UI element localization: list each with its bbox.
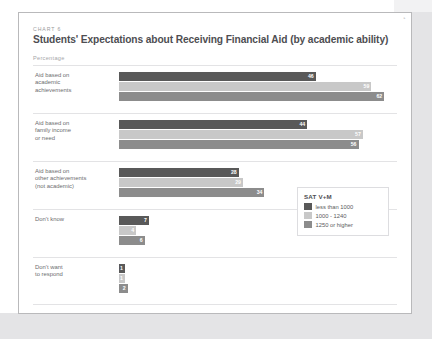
corner-mark-icon: ‣ xyxy=(403,16,408,21)
chart-legend: SAT V+M less than 10001000 - 12401250 or… xyxy=(297,187,389,236)
category-label: Aid based onfamily incomeor need xyxy=(35,120,113,142)
bar-value-label: 7 xyxy=(144,216,147,225)
bar-3: 62 xyxy=(119,92,384,101)
legend-items: less than 10001000 - 12401250 or higher xyxy=(304,203,383,228)
bar-2: 4 xyxy=(119,226,136,235)
bar-value-label: 29 xyxy=(235,178,241,187)
bar-value-label: 1 xyxy=(120,274,123,283)
bar-3: 6 xyxy=(119,236,145,245)
bar-1: 44 xyxy=(119,120,307,129)
legend-swatch-icon xyxy=(304,221,312,228)
bar-3: 34 xyxy=(119,188,264,197)
chart-eyebrow-label: CHART 6 xyxy=(33,26,61,32)
category-label-line: achievements xyxy=(35,87,113,94)
category-label-line: (not academic) xyxy=(35,183,113,190)
bar-value-label: 57 xyxy=(355,130,361,139)
bar-value-label: 62 xyxy=(376,92,382,101)
page-margin-top-right xyxy=(394,0,432,12)
category-label-line: Don't know xyxy=(35,216,113,223)
legend-swatch-icon xyxy=(304,203,312,210)
bar-value-label: 46 xyxy=(308,72,314,81)
category-label-line: Aid based on xyxy=(35,72,113,79)
category-label-line: academic xyxy=(35,79,113,86)
bar-1: 1 xyxy=(119,264,125,273)
category-label: Don't know xyxy=(35,216,113,223)
legend-swatch-icon xyxy=(304,212,312,219)
chart-card: ‣ CHART 6 Students' Expectations about R… xyxy=(18,12,412,314)
legend-item[interactable]: 1000 - 1240 xyxy=(304,212,383,219)
bar-3: 56 xyxy=(119,140,359,149)
category-label: Aid based onacademicachievements xyxy=(35,72,113,94)
bar-group: 445756 xyxy=(119,120,397,150)
legend-item[interactable]: 1250 or higher xyxy=(304,221,383,228)
chart-card-inner: ‣ CHART 6 Students' Expectations about R… xyxy=(19,13,411,313)
page-title: Students' Expectations about Receiving F… xyxy=(33,34,388,45)
chart-group-row: Don't wantto respond112 xyxy=(33,257,397,305)
bar-1: 7 xyxy=(119,216,149,225)
category-label-line: Aid based on xyxy=(35,168,113,175)
bar-value-label: 44 xyxy=(299,120,305,129)
category-label: Aid based onother achievements(not acade… xyxy=(35,168,113,190)
chart-plot-area: Aid based onacademicachievements465962Ai… xyxy=(33,65,397,305)
chart-group-row: Aid based onacademicachievements465962 xyxy=(33,65,397,113)
category-label: Don't wantto respond xyxy=(35,264,113,279)
page-margin-bottom xyxy=(0,313,432,339)
category-label-line: family income xyxy=(35,127,113,134)
bar-2: 29 xyxy=(119,178,243,187)
bar-value-label: 59 xyxy=(364,82,370,91)
bar-1: 28 xyxy=(119,168,239,177)
bar-value-label: 28 xyxy=(231,168,237,177)
bar-3: 2 xyxy=(119,284,128,293)
chart-group-row: Aid based onfamily incomeor need445756 xyxy=(33,113,397,161)
bar-2: 57 xyxy=(119,130,363,139)
category-label-line: other achievements xyxy=(35,175,113,182)
bar-value-label: 1 xyxy=(120,264,123,273)
category-label-line: to respond xyxy=(35,271,113,278)
legend-item-label: less than 1000 xyxy=(316,204,354,210)
bar-value-label: 6 xyxy=(140,236,143,245)
bar-value-label: 34 xyxy=(257,188,263,197)
legend-item[interactable]: less than 1000 xyxy=(304,203,383,210)
legend-title: SAT V+M xyxy=(304,193,383,200)
category-label-line: Aid based on xyxy=(35,120,113,127)
legend-item-label: 1250 or higher xyxy=(316,222,353,228)
bar-value-label: 56 xyxy=(351,140,357,149)
bar-2: 59 xyxy=(119,82,371,91)
bar-1: 46 xyxy=(119,72,316,81)
bar-group: 112 xyxy=(119,264,397,294)
chart-units-label: Percentage xyxy=(33,55,65,61)
category-label-line: Don't want xyxy=(35,264,113,271)
bar-group: 465962 xyxy=(119,72,397,102)
bar-value-label: 2 xyxy=(123,284,126,293)
category-label-line: or need xyxy=(35,135,113,142)
bar-2: 1 xyxy=(119,274,125,283)
bar-value-label: 4 xyxy=(131,226,134,235)
legend-item-label: 1000 - 1240 xyxy=(316,213,347,219)
